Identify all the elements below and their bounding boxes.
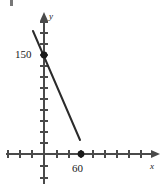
x-intercept-point bbox=[78, 151, 85, 158]
coordinate-plane bbox=[0, 0, 162, 184]
y-axis-label: y bbox=[49, 12, 53, 21]
graph-figure: y x 150 60 bbox=[0, 0, 162, 184]
plotted-line bbox=[33, 31, 80, 140]
y-intercept-point bbox=[41, 52, 48, 59]
x-axis-label: x bbox=[150, 162, 154, 171]
x-intercept-label: 60 bbox=[72, 163, 83, 174]
y-intercept-label: 150 bbox=[15, 49, 32, 60]
y-axis bbox=[40, 12, 48, 184]
scan-speck-artifact bbox=[10, 0, 13, 6]
